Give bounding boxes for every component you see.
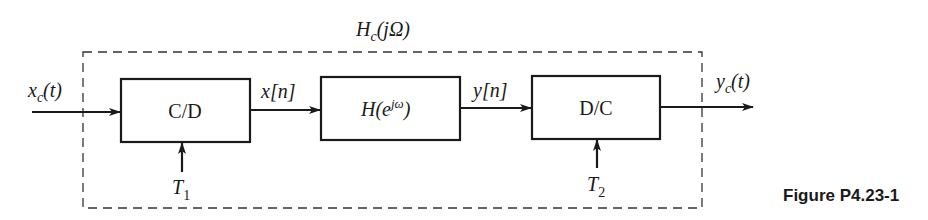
overall-system-label: Hc(jΩ) <box>355 18 410 44</box>
t1-label: T1 <box>172 176 190 203</box>
cd-block-label: C/D <box>168 100 201 122</box>
input-signal-label: xc(t) <box>27 79 62 105</box>
dc-block-label: D/C <box>579 97 612 119</box>
xn-label: x[n] <box>260 80 295 102</box>
block-diagram: Hc(jΩ) xc(t) C/D T1 x[n] H(ejω) y[n] D/C… <box>0 0 928 220</box>
figure-caption: Figure P4.23-1 <box>783 186 899 205</box>
t2-label: T2 <box>587 173 605 200</box>
output-signal-label: yc(t) <box>714 70 750 96</box>
yn-label: y[n] <box>471 79 507 102</box>
figure-canvas: Hc(jΩ) xc(t) C/D T1 x[n] H(ejω) y[n] D/C… <box>0 0 928 220</box>
filter-block-label: H(ejω) <box>360 96 411 121</box>
